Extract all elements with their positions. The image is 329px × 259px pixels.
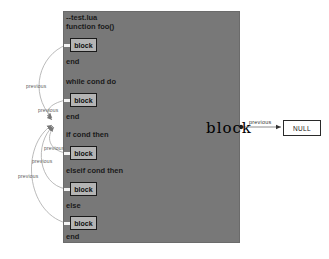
code-line: if cond then [66, 130, 109, 139]
diagram-canvas: block --test.luafunction foo()endwhile c… [0, 0, 329, 259]
code-line: while cond do [66, 77, 116, 86]
child-block-node[interactable]: block [70, 216, 97, 230]
child-block-node[interactable]: block [70, 38, 97, 52]
null-node[interactable]: NULL [283, 120, 321, 136]
child-block-node[interactable]: block [70, 93, 97, 107]
previous-edge-label: previous [38, 107, 59, 113]
previous-edge-label: previous [32, 158, 53, 164]
previous-edge-label-null: previous [249, 119, 271, 125]
code-line: end [66, 57, 79, 66]
code-line: function foo() [66, 22, 114, 31]
child-block-node[interactable]: block [70, 146, 97, 160]
previous-edge-label: previous [44, 145, 65, 151]
code-line: elseif cond then [66, 166, 123, 175]
code-line: --test.lua [66, 13, 97, 22]
child-block-node[interactable]: block [70, 182, 97, 196]
previous-edge-label: previous [18, 173, 39, 179]
code-line: end [66, 112, 79, 121]
previous-edge-label: previous [26, 83, 47, 89]
code-line: end [66, 232, 79, 241]
code-line: else [66, 201, 81, 210]
